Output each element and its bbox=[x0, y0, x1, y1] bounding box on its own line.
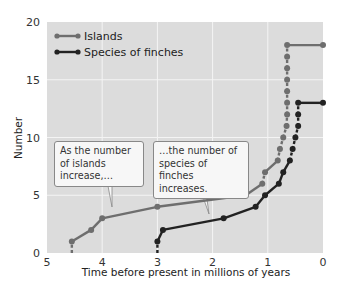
data-point bbox=[280, 135, 286, 141]
data-point bbox=[284, 54, 290, 60]
data-point bbox=[275, 158, 281, 164]
data-point bbox=[99, 215, 105, 221]
data-point bbox=[154, 238, 160, 244]
data-point bbox=[154, 204, 160, 210]
data-point bbox=[88, 227, 94, 233]
data-point bbox=[259, 181, 265, 187]
data-point bbox=[160, 227, 166, 233]
data-point bbox=[290, 146, 296, 152]
callout-finches: …the number of species of finches increa… bbox=[153, 141, 249, 199]
data-point bbox=[292, 135, 298, 141]
data-point bbox=[284, 42, 290, 48]
y-axis-ticks: 05101520 bbox=[26, 16, 40, 260]
data-point bbox=[280, 169, 286, 175]
data-point bbox=[276, 181, 282, 187]
data-point bbox=[320, 42, 326, 48]
y-axis-label: Number bbox=[12, 116, 24, 159]
data-point bbox=[295, 111, 301, 117]
data-point bbox=[284, 65, 290, 71]
data-point bbox=[287, 158, 293, 164]
y-tick-label: 5 bbox=[33, 189, 40, 202]
y-tick-label: 10 bbox=[26, 132, 40, 145]
x-axis-label: Time before present in millions of years bbox=[81, 266, 290, 278]
data-point bbox=[284, 77, 290, 83]
x-tick-label: 0 bbox=[320, 256, 327, 269]
data-point bbox=[253, 204, 259, 210]
legend-label: Islands bbox=[84, 30, 123, 43]
data-point bbox=[295, 100, 301, 106]
data-point bbox=[262, 169, 268, 175]
data-point bbox=[295, 123, 301, 129]
data-point bbox=[284, 111, 290, 117]
data-point bbox=[69, 238, 75, 244]
y-tick-label: 15 bbox=[26, 74, 40, 87]
data-point bbox=[284, 123, 290, 129]
legend-label: Species of finches bbox=[84, 46, 184, 59]
y-tick-label: 0 bbox=[33, 247, 40, 260]
data-point bbox=[262, 192, 268, 198]
callout-islands: As the number of islands increase,… bbox=[54, 141, 144, 187]
y-tick-label: 20 bbox=[26, 16, 40, 29]
data-point bbox=[284, 88, 290, 94]
data-point bbox=[221, 215, 227, 221]
data-point bbox=[320, 100, 326, 106]
x-tick-label: 5 bbox=[44, 256, 51, 269]
data-point bbox=[277, 146, 283, 152]
data-point bbox=[284, 100, 290, 106]
